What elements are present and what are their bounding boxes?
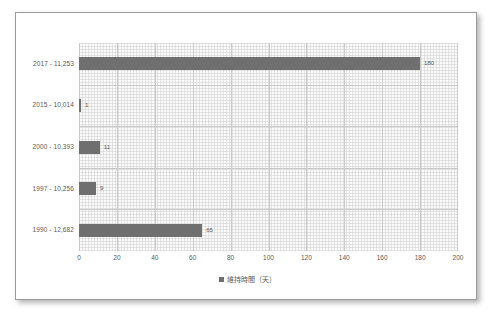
bar-value-label: 11 bbox=[104, 141, 110, 154]
x-axis-tick-label: 20 bbox=[113, 254, 120, 261]
x-axis-tick-label: 40 bbox=[151, 254, 158, 261]
x-axis-tick-label: 80 bbox=[227, 254, 234, 261]
x-axis-tick-label: 60 bbox=[189, 254, 196, 261]
category-label: 1990 - 12,682 bbox=[33, 226, 74, 233]
bars-layer: 180111965 bbox=[79, 43, 458, 251]
bar-value-label: 65 bbox=[206, 224, 213, 237]
x-axis-tick-label: 100 bbox=[263, 254, 274, 261]
bar-value-label: 1 bbox=[85, 99, 88, 112]
x-axis-tick-label: 200 bbox=[453, 254, 464, 261]
bar bbox=[79, 141, 100, 154]
chart-plot-wrapper: 180111965 2017 - 11,2532015 - 10,0142000… bbox=[16, 13, 478, 301]
category-label: 2017 - 11,253 bbox=[33, 60, 74, 67]
bar bbox=[79, 224, 202, 237]
category-label: 1997 - 10,256 bbox=[33, 185, 74, 192]
bar bbox=[79, 182, 96, 195]
x-axis-tick-label: 180 bbox=[415, 254, 426, 261]
category-axis-labels: 2017 - 11,2532015 - 10,0142000 - 10,3931… bbox=[16, 43, 74, 251]
legend-square-marker-icon bbox=[219, 277, 224, 282]
x-axis-tick-label: 160 bbox=[377, 254, 388, 261]
x-axis-tick-label: 120 bbox=[301, 254, 312, 261]
legend-label: 維持時間（天） bbox=[227, 274, 276, 284]
category-label: 2015 - 10,014 bbox=[33, 101, 74, 108]
bar bbox=[79, 99, 81, 112]
bar bbox=[79, 57, 420, 70]
x-axis-tick-label: 140 bbox=[339, 254, 350, 261]
chart-card: 180111965 2017 - 11,2532015 - 10,0142000… bbox=[15, 12, 477, 300]
chart-legend: 維持時間（天） bbox=[16, 274, 478, 284]
bar-value-label: 180 bbox=[424, 57, 434, 70]
x-axis-tick-labels: 020406080100120140160180200 bbox=[79, 254, 458, 266]
x-axis-tick-label: 0 bbox=[77, 254, 81, 261]
bar-value-label: 9 bbox=[100, 182, 103, 195]
screenshot-root: 180111965 2017 - 11,2532015 - 10,0142000… bbox=[0, 0, 493, 315]
category-label: 2000 - 10,393 bbox=[33, 143, 74, 150]
